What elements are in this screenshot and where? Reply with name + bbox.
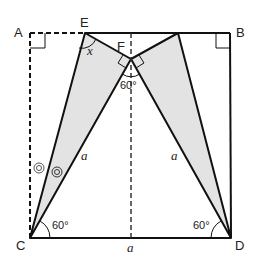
diagram-canvas: A B C D E F x 60° 60° 60° a a a — [0, 0, 258, 268]
label-angle-D: 60° — [193, 219, 210, 231]
label-F: F — [117, 39, 125, 54]
label-angle-F: 60° — [120, 79, 137, 91]
label-angle-C: 60° — [52, 219, 69, 231]
angle-arc-C — [40, 221, 50, 238]
label-D: D — [235, 238, 244, 253]
right-angle-A — [30, 33, 45, 48]
side-BD — [230, 33, 231, 238]
label-B: B — [236, 25, 245, 40]
right-shaded-triangle — [131, 33, 231, 238]
right-angle-B — [216, 33, 230, 48]
label-side-CF: a — [81, 148, 88, 163]
geometry-diagram: A B C D E F x 60° 60° 60° a a a — [0, 0, 258, 268]
label-angle-x: x — [86, 43, 93, 58]
label-side-DF: a — [171, 148, 178, 163]
angle-arc-D — [211, 221, 221, 238]
label-C: C — [16, 238, 25, 253]
label-E: E — [80, 15, 89, 30]
label-A: A — [14, 25, 23, 40]
left-shaded-triangle — [30, 33, 131, 238]
label-side-CD: a — [127, 240, 134, 255]
equal-angle-marker-1 — [34, 163, 44, 173]
